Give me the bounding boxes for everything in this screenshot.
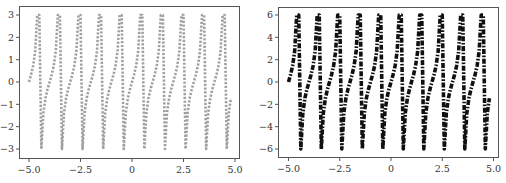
figure: −5.0−2.502.55.03210−1−2−3 −5.0−2.502.55.…: [0, 0, 506, 183]
y-tick-label: 1: [8, 54, 14, 65]
y-tick-label: −6: [259, 143, 273, 154]
data-line-0-0: [29, 15, 231, 149]
y-tick-label: 0: [8, 76, 14, 87]
x-tick-label: 5.0: [227, 164, 242, 175]
x-tick-label: 2.5: [435, 163, 450, 174]
x-tick-label: −5.0: [17, 164, 40, 175]
data-line-1-0: [289, 15, 490, 149]
y-tick-label: −3: [0, 143, 14, 154]
y-tick-label: 2: [8, 32, 14, 43]
x-tick-label: 5.0: [486, 163, 501, 174]
y-tick-label: 0: [267, 76, 273, 87]
x-tick-label: −2.5: [69, 164, 92, 175]
x-tick-label: −2.5: [328, 163, 351, 174]
x-tick-label: −5.0: [277, 163, 300, 174]
y-tick-label: 4: [267, 32, 273, 43]
y-tick-label: −2: [259, 99, 273, 110]
x-tick-label: 2.5: [176, 164, 191, 175]
axes-frame: [20, 7, 240, 159]
x-tick-label: 0: [388, 163, 394, 174]
y-tick-label: 6: [267, 9, 273, 20]
x-tick-label: 0: [129, 164, 135, 175]
y-tick-label: −2: [0, 121, 14, 132]
left-plot: −5.0−2.502.55.03210−1−2−3: [0, 7, 243, 176]
y-tick-label: −1: [0, 99, 14, 110]
y-tick-label: 3: [8, 9, 14, 20]
y-tick-label: 2: [267, 54, 273, 65]
y-tick-label: −4: [259, 121, 273, 132]
right-plot: −5.0−2.502.55.06420−2−4−6: [259, 8, 501, 175]
